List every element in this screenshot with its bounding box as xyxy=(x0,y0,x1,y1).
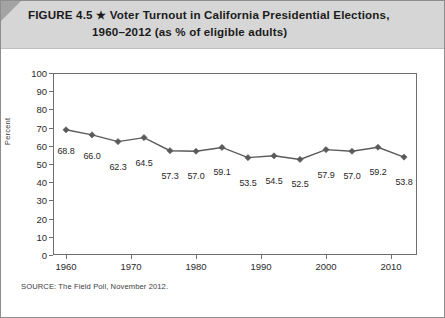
series-marker xyxy=(297,156,303,162)
data-point-label: 57.9 xyxy=(317,170,334,180)
series-marker xyxy=(167,148,173,154)
series-marker xyxy=(141,135,147,141)
data-point-label: 64.5 xyxy=(135,158,152,168)
series-marker xyxy=(193,148,199,154)
data-point-label: 66.0 xyxy=(83,151,100,161)
figure-body: Percent 0102030405060708090100 196019701… xyxy=(1,49,445,318)
data-point-label: 54.5 xyxy=(265,176,282,186)
data-point-label: 59.2 xyxy=(369,167,386,177)
series-marker xyxy=(115,139,121,145)
source-note: SOURCE: The Field Poll, November 2012. xyxy=(21,282,168,291)
data-point-label: 57.3 xyxy=(161,171,178,181)
series-marker xyxy=(375,144,381,150)
data-point-label: 57.0 xyxy=(343,171,360,181)
series-marker xyxy=(401,154,407,160)
figure-number: FIGURE 4.5 xyxy=(28,8,93,21)
series-marker xyxy=(323,147,329,153)
data-point-label: 59.1 xyxy=(213,167,230,177)
figure-title-line-1: Voter Turnout in California Presidential… xyxy=(110,8,390,21)
chart-plot-wrapper: Percent 0102030405060708090100 196019701… xyxy=(1,49,445,274)
series-marker xyxy=(63,127,69,133)
figure-header-band: FIGURE 4.5★Voter Turnout in California P… xyxy=(1,1,445,49)
data-point-label: 52.5 xyxy=(291,179,308,189)
series-marker xyxy=(89,132,95,138)
data-point-label: 68.8 xyxy=(57,146,74,156)
figure-container: FIGURE 4.5★Voter Turnout in California P… xyxy=(0,0,445,318)
data-point-label: 53.8 xyxy=(395,177,412,187)
data-point-label: 53.5 xyxy=(239,178,256,188)
figure-title: FIGURE 4.5★Voter Turnout in California P… xyxy=(28,7,432,40)
figure-title-line-2: 1960–2012 (as % of eligible adults) xyxy=(92,24,432,41)
series-marker xyxy=(271,153,277,159)
data-point-label: 57.0 xyxy=(187,171,204,181)
series-polyline xyxy=(66,130,404,160)
series-marker xyxy=(245,155,251,161)
series-marker xyxy=(219,144,225,150)
data-point-label: 62.3 xyxy=(109,162,126,172)
series-markers xyxy=(63,127,407,163)
turnout-line-series xyxy=(1,49,445,274)
star-icon: ★ xyxy=(93,9,110,21)
series-marker xyxy=(349,148,355,154)
corner-fold-decoration xyxy=(1,1,21,21)
